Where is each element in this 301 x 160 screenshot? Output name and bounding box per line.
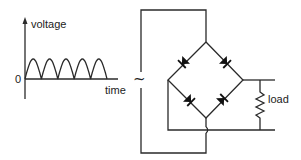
diagram-canvas: voltage time 0 ~ load (0, 0, 301, 160)
load-label: load (268, 93, 289, 105)
load-resistor-icon (256, 80, 264, 130)
bridge-diamond (168, 42, 243, 118)
y-axis-arrow-icon (23, 17, 28, 24)
origin-label: 0 (15, 73, 21, 85)
y-axis-label: voltage (31, 18, 66, 30)
diode-bottom-left-icon (183, 94, 191, 102)
bridge-rectifier-circuit: ~ load (133, 10, 289, 153)
x-axis-label: time (105, 84, 126, 96)
source-wire-bottom (141, 88, 206, 153)
diode-bottom-right-icon (216, 98, 224, 106)
voltage-time-graph: voltage time 0 (15, 17, 126, 99)
ac-source-icon: ~ (133, 70, 146, 88)
rectified-waveform (25, 59, 107, 79)
source-wire-top (141, 10, 206, 72)
